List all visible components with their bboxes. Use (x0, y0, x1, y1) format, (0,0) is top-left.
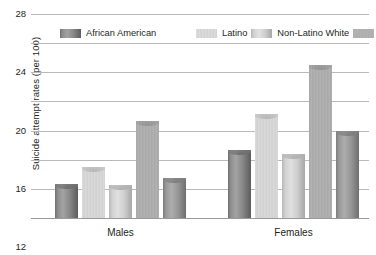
y-axis-tick-label: 28 (15, 9, 26, 19)
bar (282, 154, 305, 218)
legend-swatch-icon (251, 29, 272, 38)
plot-area: 0481216202428 (31, 14, 369, 218)
bar (309, 65, 332, 218)
bar-body (55, 184, 78, 218)
legend-label: African American (86, 29, 156, 38)
bar-body (336, 131, 359, 218)
bar-body (228, 150, 251, 218)
legend-label: Non-Latino White (277, 29, 349, 38)
bar (228, 150, 251, 218)
legend: African AmericanLatinoNon-Latino WhiteAm… (60, 26, 360, 41)
bar-top-cap (109, 185, 132, 190)
legend-swatch-icon (196, 29, 217, 38)
gridline: 24 (31, 43, 369, 44)
y-axis-tick-label: 16 (15, 184, 26, 194)
bar-body (255, 114, 278, 218)
bar-body (109, 185, 132, 219)
bar-top-cap (336, 131, 359, 136)
bar-body (136, 121, 159, 218)
gridline: 28 (31, 14, 369, 15)
legend-item: Non-Latino White (251, 26, 349, 41)
y-axis-tick-label: 12 (15, 242, 26, 252)
bar (82, 167, 105, 218)
bar (255, 114, 278, 218)
y-axis-tick-label: 20 (15, 126, 26, 136)
bar-body (282, 154, 305, 218)
legend-swatch-icon (60, 29, 81, 38)
legend-item: African American (60, 26, 192, 41)
legend-swatch-icon (353, 29, 374, 38)
bar (109, 185, 132, 219)
bar-body (163, 178, 186, 218)
legend-item: American Indian/Alaska Native (353, 26, 376, 41)
bar (163, 178, 186, 218)
x-axis-group-label: Males (107, 227, 134, 238)
bar-body (82, 167, 105, 218)
bar (136, 121, 159, 218)
bar (55, 184, 78, 218)
bar-body (309, 65, 332, 218)
y-axis-tick-label: 24 (15, 68, 26, 78)
gridline: 0 (31, 218, 369, 219)
bar (336, 131, 359, 218)
bar-chart: Suicide attempt rates (per 100) 04812162… (0, 0, 376, 255)
x-axis-group-label: Females (274, 227, 312, 238)
legend-item: Latino (196, 26, 247, 41)
legend-label: Latino (222, 29, 247, 38)
